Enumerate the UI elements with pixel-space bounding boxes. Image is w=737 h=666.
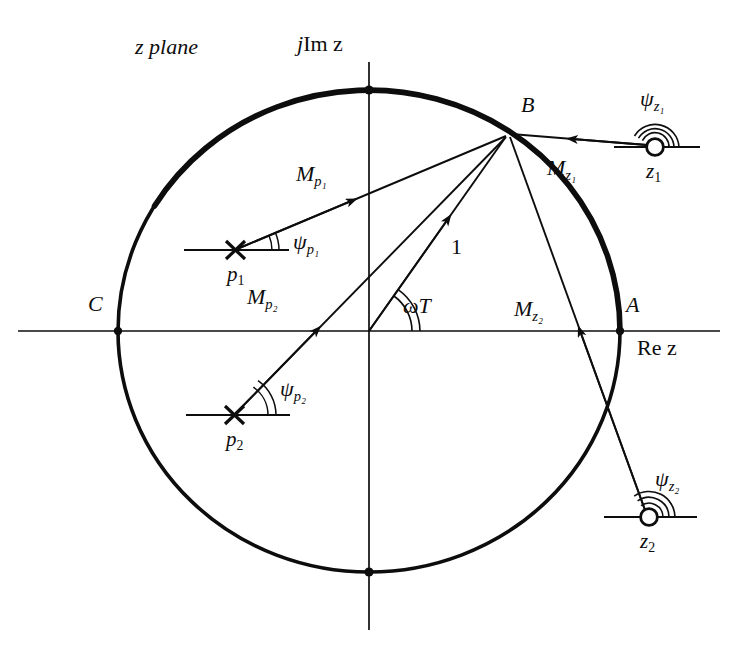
vector-label-unit-radius: 1 [451, 236, 462, 258]
point-label-B: B [521, 94, 534, 116]
angle-label-psi-z1: ψz₁ [640, 88, 664, 113]
zero-z1-marker [647, 139, 664, 156]
psi-p1-angle-arc-1 [269, 236, 272, 251]
zero-z2-marker [641, 509, 658, 526]
vector-label-Mz2: Mz₂ [514, 298, 543, 323]
vector-label-Mz1: Mz₁ [547, 157, 576, 182]
angle-label-psi-p1: ψp₁ [293, 231, 319, 256]
vector-Mz1-arrowhead [572, 139, 647, 145]
point-label-A: A [626, 294, 639, 316]
unit-circle-emphasis-arc [155, 90, 621, 331]
zero-label-z2: z2 [640, 531, 655, 555]
angle-label-psi-z2: ψz₂ [655, 468, 679, 493]
vector-Mz2-arrowhead [580, 331, 645, 510]
imaginary-axis-label: jIm z [297, 33, 343, 55]
diagram-canvas [0, 0, 737, 666]
psi-p2-angle-arc-1 [253, 387, 268, 415]
angle-label-omegaT: ωT [403, 295, 431, 317]
circle-top-dot [364, 85, 373, 94]
pole-label-p1: p1 [227, 264, 244, 288]
point-A-dot [616, 327, 624, 335]
angle-label-psi-p2: ψp₂ [280, 378, 306, 403]
circle-bottom-dot [364, 567, 373, 576]
zero-label-z1: z1 [646, 161, 661, 185]
real-axis-label: Re z [637, 337, 677, 359]
vector-label-Mp2: Mp₂ [247, 286, 278, 311]
point-label-C: C [88, 293, 103, 315]
z-plane-figure: z plane jIm z Re z A B C p1 p2 z1 z2 Mp₁… [0, 0, 737, 666]
pole-label-p2: p2 [226, 429, 243, 453]
plane-label: z plane [135, 36, 198, 58]
vector-label-Mp1: Mp₁ [296, 163, 327, 188]
psi-p1-angle-arc-2 [275, 233, 279, 250]
point-C-dot [114, 327, 122, 335]
